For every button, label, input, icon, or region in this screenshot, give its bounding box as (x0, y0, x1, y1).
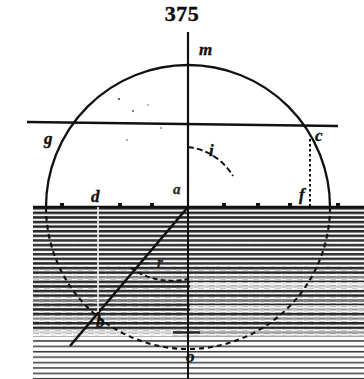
label-r: r (157, 255, 163, 270)
label-m: m (199, 41, 212, 58)
label-o: o (186, 348, 195, 365)
figure-root: 375 (0, 0, 364, 379)
label-i: i (209, 142, 214, 159)
page-speckles (118, 98, 162, 141)
label-d: d (91, 188, 100, 205)
label-a: a (173, 182, 181, 197)
label-g: g (44, 130, 53, 147)
surface-nicks (60, 203, 340, 206)
label-f: f (299, 186, 305, 203)
label-b: b (96, 313, 105, 330)
label-c: c (315, 127, 323, 144)
refraction-diagram (0, 0, 364, 379)
lower-medium-hatching (33, 207, 364, 379)
